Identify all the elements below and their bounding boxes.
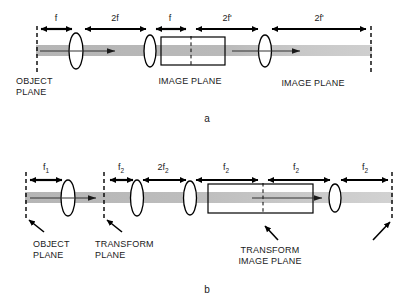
dim-label-b-2: f2 — [118, 162, 125, 174]
dim-label-b-6: f2 — [362, 162, 369, 174]
plane-label-b-object-line1: OBJECT — [33, 239, 70, 249]
dim-label-b-4-sub: 2 — [225, 167, 229, 174]
plane-label-b-transform-image-line1: TRANSFORM — [241, 245, 300, 255]
dim-label-b-1-sub: 1 — [45, 167, 49, 174]
dim-label-b-5: f2 — [293, 162, 300, 174]
pointer-object-plane-b — [29, 220, 44, 232]
pointer-output-plane-b — [373, 222, 390, 240]
dim-label-b-3: 2f2 — [157, 162, 169, 174]
panel-letter-b: b — [204, 284, 210, 295]
panel-a: f 2f f 2f' 2f' OBJECT PLANE IMAGE PLANE … — [16, 13, 372, 124]
pointer-transform-image-plane-b — [265, 226, 278, 240]
plane-label-b-transform-line1: TRANSFORM — [95, 239, 154, 249]
optics-diagram-canvas: f 2f f 2f' 2f' OBJECT PLANE IMAGE PLANE … — [0, 0, 417, 308]
dim-label-a-2: 2f — [111, 13, 119, 23]
lens-a-2 — [144, 35, 156, 67]
lens-b-2 — [131, 180, 144, 216]
plane-label-a-image-2: IMAGE PLANE — [281, 78, 344, 88]
optics-figure: f 2f f 2f' 2f' OBJECT PLANE IMAGE PLANE … — [0, 0, 417, 308]
lens-b-3 — [184, 181, 197, 215]
panel-letter-a: a — [204, 113, 210, 124]
plane-label-a-object-line1: OBJECT — [16, 76, 53, 86]
dim-label-a-5: 2f' — [314, 13, 324, 23]
dim-label-b-4: f2 — [223, 162, 230, 174]
pointer-transform-plane-b — [107, 220, 122, 232]
plane-label-b-transform-line2: PLANE — [95, 250, 126, 260]
dim-label-b-5-sub: 2 — [295, 167, 299, 174]
dim-label-b-1: f1 — [43, 162, 50, 174]
plane-label-b-transform-image-line2: IMAGE PLANE — [238, 256, 301, 266]
dim-label-a-3: f — [169, 13, 172, 23]
plane-label-a-image-1: IMAGE PLANE — [158, 76, 221, 86]
plane-label-b-object-line2: PLANE — [33, 250, 64, 260]
dim-label-b-6-sub: 2 — [364, 167, 368, 174]
panel-b: f1 f2 2f2 f2 f2 f2 OBJECT PLANE TRANSFOR… — [25, 162, 393, 295]
dim-label-b-2-sub: 2 — [120, 167, 124, 174]
plane-label-a-object-line2: PLANE — [16, 87, 47, 97]
dim-label-a-1: f — [55, 13, 58, 23]
dim-label-b-3-sub: 2 — [165, 167, 169, 174]
dim-label-a-4: 2f' — [222, 13, 232, 23]
lens-b-4 — [329, 184, 341, 212]
